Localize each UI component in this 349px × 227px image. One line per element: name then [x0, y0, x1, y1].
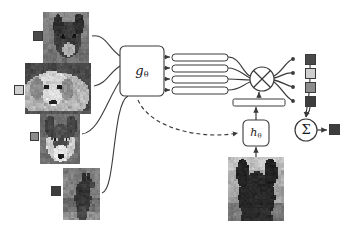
output-label-1 [305, 54, 316, 65]
predicted-label [329, 124, 340, 135]
query-image [228, 157, 284, 221]
junction-dot-3 [291, 85, 295, 89]
support-label-4 [51, 186, 61, 196]
junction-dot-4 [291, 99, 295, 103]
edges-encoder-to-bars [164, 57, 170, 90]
edge-bar-attention-1 [228, 57, 250, 76]
support-image-2 [25, 63, 91, 114]
support-image-2-canvas [25, 63, 91, 114]
support-image-1-canvas [43, 12, 89, 63]
sum-node [295, 119, 317, 141]
query-embedding-vector [233, 99, 285, 106]
support-image-1 [43, 12, 89, 63]
support-label-3 [30, 132, 39, 141]
h-theta-encoder [243, 120, 269, 146]
edge-bar-attention-4 [228, 82, 250, 90]
figure-canvas: gθhθΣ [0, 0, 349, 227]
support-image-3-canvas [40, 114, 80, 164]
output-label-2 [305, 68, 316, 79]
edge-attention-output-4 [274, 82, 293, 101]
g-theta-encoder [120, 46, 164, 96]
edge-support-2 [94, 66, 120, 86]
junction-dot-1 [291, 57, 295, 61]
edge-feedback-1 [138, 100, 238, 135]
edge-support-4 [102, 96, 128, 193]
support-label-2 [14, 85, 24, 95]
output-label-4 [305, 96, 316, 107]
edges-bars-to-attention [228, 57, 250, 90]
edge-attention-output-3 [274, 80, 293, 87]
support-label-1 [33, 31, 43, 41]
edges-attention-to-outputs [274, 59, 293, 101]
edge-bar-attention-3 [228, 79, 250, 80]
junction-dot-2 [291, 71, 295, 75]
edge-junction-dots [291, 57, 295, 103]
query-image-canvas [228, 157, 284, 221]
edge-feedback-dashed [138, 100, 238, 135]
support-image-4 [63, 168, 100, 220]
support-embedding-bar-3 [172, 76, 228, 83]
support-embedding-bar-2 [172, 65, 228, 72]
support-embedding-bar-4 [172, 87, 228, 94]
output-label-3 [305, 82, 316, 93]
support-image-3 [40, 114, 80, 164]
edge-support-1 [92, 36, 120, 56]
support-embedding-bar-1 [172, 54, 228, 61]
support-image-4-canvas [63, 168, 100, 220]
